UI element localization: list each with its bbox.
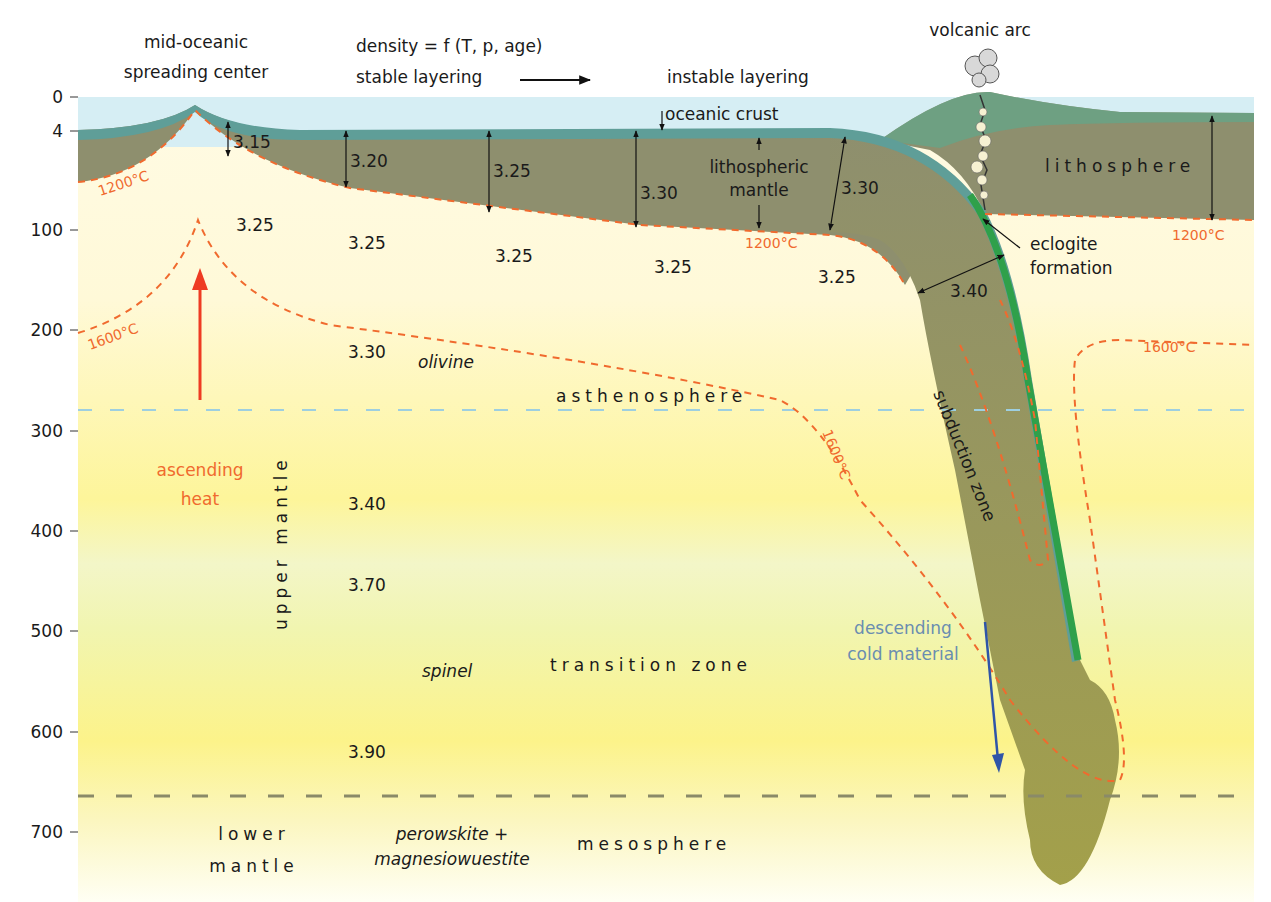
- volcanic-arc-label: volcanic arc: [929, 20, 1031, 40]
- tick-700: 700: [31, 822, 63, 842]
- descending-cold-label-2: cold material: [847, 644, 959, 664]
- spinel-label: spinel: [422, 661, 473, 681]
- tick-600: 600: [31, 722, 63, 742]
- mesosphere-label: mesosphere: [577, 834, 731, 854]
- density-3-25-lith: 3.25: [493, 161, 531, 181]
- upper-mantle-label: upper mantle: [271, 455, 291, 630]
- tick-500: 500: [31, 621, 63, 641]
- density-3-25-d: 3.25: [654, 257, 692, 277]
- tick-400: 400: [31, 521, 63, 541]
- perowskite-label-2: magnesiowuestite: [374, 849, 530, 869]
- ascending-heat-label-2: heat: [181, 489, 220, 509]
- lower-mantle-label-2: mantle: [209, 856, 299, 876]
- isotherm-1600-label-right: 1600°C: [1143, 339, 1196, 355]
- tick-100: 100: [31, 220, 63, 240]
- isotherm-1200-label-mid: 1200°C: [745, 235, 798, 251]
- density-3-25-c: 3.25: [495, 246, 533, 266]
- oceanic-crust-label: oceanic crust: [665, 104, 779, 124]
- transition-zone-label: transition zone: [550, 655, 752, 675]
- ridge-label-line1: mid-oceanic: [144, 32, 248, 52]
- lower-mantle-label-1: lower: [218, 824, 289, 844]
- perowskite-label-1: perowskite +: [395, 824, 509, 844]
- lith-mantle-label-1: lithospheric: [709, 157, 808, 177]
- descending-cold-label-1: descending: [854, 618, 952, 638]
- instable-layering-label: instable layering: [667, 67, 809, 87]
- density-3-90: 3.90: [348, 742, 386, 762]
- density-3-70: 3.70: [348, 575, 386, 595]
- density-3-30-lith: 3.30: [640, 183, 678, 203]
- tick-300: 300: [31, 421, 63, 441]
- lithosphere-label: lithosphere: [1045, 156, 1195, 176]
- density-3-40-slab: 3.40: [950, 281, 988, 301]
- density-3-30-bend: 3.30: [841, 178, 879, 198]
- density-3-25-a: 3.25: [236, 215, 274, 235]
- asthenosphere-label: asthenosphere: [556, 386, 747, 406]
- density-3-30: 3.30: [348, 342, 386, 362]
- density-formula: density = f (T, p, age): [356, 36, 543, 56]
- density-3-40: 3.40: [348, 494, 386, 514]
- eclogite-label-2: formation: [1030, 258, 1113, 278]
- density-3-25-b: 3.25: [348, 233, 386, 253]
- lith-mantle-label-2: mantle: [729, 180, 789, 200]
- ridge-label-line2: spreading center: [124, 62, 268, 82]
- density-3-25-e: 3.25: [818, 267, 856, 287]
- density-3-20: 3.20: [350, 151, 388, 171]
- tick-0: 0: [52, 87, 63, 107]
- volcanic-plume-icon: [965, 49, 999, 87]
- isotherm-1200-label-right: 1200°C: [1172, 227, 1225, 243]
- depth-axis: 0 4 100 200 300 400 500 600 700: [31, 87, 78, 842]
- mantle-cross-section-diagram: 0 4 100 200 300 400 500 600 700 mid-ocea…: [0, 0, 1271, 902]
- density-3-15: 3.15: [233, 132, 271, 152]
- eclogite-label-1: eclogite: [1030, 234, 1098, 254]
- stable-layering-label: stable layering: [356, 67, 482, 87]
- tick-4: 4: [52, 121, 63, 141]
- ascending-heat-label-1: ascending: [157, 460, 244, 480]
- tick-200: 200: [31, 320, 63, 340]
- olivine-label: olivine: [418, 352, 474, 372]
